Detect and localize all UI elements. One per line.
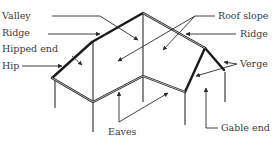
label-hip: Hip — [2, 60, 62, 71]
label-ridge-left: Ridge — [2, 27, 100, 38]
valley-label: Valley — [1, 10, 31, 21]
hip-label: Hip — [2, 60, 19, 71]
roof-slope-label: Roof slope — [218, 10, 269, 21]
roof-diagram: Valley Ridge Hipped end Hip Roof slope R… — [0, 0, 279, 142]
eaves-label: Eaves — [108, 126, 137, 137]
verge-label: Verge — [239, 58, 268, 69]
label-verge: Verge — [196, 58, 268, 76]
ridge-right-label: Ridge — [240, 28, 268, 39]
hipped-end-label: Hipped end — [2, 43, 58, 54]
gable-end-label: Gable end — [221, 122, 270, 133]
label-eaves: Eaves — [108, 92, 168, 137]
roof-outline — [52, 13, 224, 102]
wall-lines — [55, 14, 225, 132]
label-gable-end: Gable end — [206, 88, 270, 133]
label-ridge-right: Ridge — [186, 28, 268, 39]
ridge-left-label: Ridge — [2, 27, 30, 38]
